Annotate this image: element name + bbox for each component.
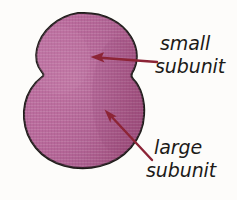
ribosome-body	[18, 10, 150, 172]
small-subunit-label-line1: small	[160, 32, 210, 54]
large-subunit-label-line1: large	[154, 136, 202, 158]
ribosome-diagram: small subunit large subunit	[0, 0, 237, 200]
large-subunit-label: large subunit	[149, 136, 216, 182]
large-subunit-label-line2: subunit	[146, 159, 216, 182]
small-subunit-label-line2: subunit	[155, 55, 225, 78]
small-subunit-label: small subunit	[159, 32, 225, 78]
